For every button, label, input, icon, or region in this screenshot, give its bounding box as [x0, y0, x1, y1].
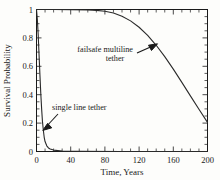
- x-tick-label: 200: [201, 155, 214, 165]
- annotation-multiline-line1: failsafe multiline: [77, 45, 133, 54]
- x-tick-label: 40: [66, 155, 75, 165]
- plot-frame: [37, 10, 208, 152]
- y-tick-label: 1: [29, 5, 33, 15]
- x-tick-label: 120: [133, 155, 146, 165]
- x-tick-label: 160: [167, 155, 180, 165]
- x-tick-label: 0: [34, 155, 38, 165]
- curve-single-line-tether: [37, 10, 208, 152]
- annotation-multiline-arrow-head: [149, 44, 158, 51]
- annotation-singleline-arrow-head: [43, 123, 52, 130]
- annotation-singleline-label: single line tether: [52, 103, 107, 112]
- y-tick-label: 0.6: [22, 61, 33, 71]
- survival-probability-chart: 0408012016020000.20.40.60.81Time, YearsS…: [0, 0, 220, 180]
- y-tick-label: 0.2: [22, 118, 33, 128]
- x-tick-label: 80: [101, 155, 110, 165]
- annotation-multiline-line2: tether: [106, 54, 125, 63]
- y-axis-title: Survival Probability: [2, 44, 12, 117]
- chart-canvas: 0408012016020000.20.40.60.81Time, YearsS…: [0, 0, 220, 180]
- y-tick-label: 0: [29, 147, 33, 157]
- y-tick-label: 0.8: [22, 33, 33, 43]
- x-axis-title: Time, Years: [101, 167, 144, 177]
- y-tick-label: 0.4: [22, 90, 33, 100]
